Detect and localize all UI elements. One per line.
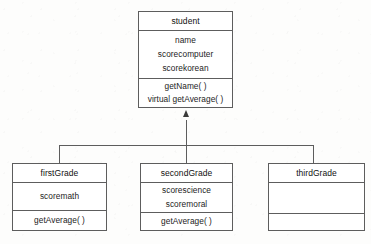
- uml-diagram-canvas: student name scorecomputer scorekorean g…: [0, 0, 371, 244]
- class-box-secondGrade[interactable]: secondGrade scorescience scoremoral getA…: [140, 163, 233, 231]
- attribute-item: name: [175, 36, 196, 45]
- inheritance-leg-secondGrade: [186, 145, 187, 163]
- class-title-compartment-firstGrade: firstGrade: [13, 164, 106, 182]
- class-attributes-compartment-thirdGrade: [269, 182, 364, 213]
- class-operations-compartment-student: getName( ) virtual getAverage( ): [139, 78, 232, 107]
- class-name-thirdGrade: thirdGrade: [296, 168, 337, 178]
- class-title-compartment-secondGrade: secondGrade: [141, 164, 232, 182]
- class-box-student[interactable]: student name scorecomputer scorekorean g…: [138, 11, 233, 108]
- attribute-item: scorekorean: [162, 64, 208, 73]
- class-name-student: student: [171, 16, 199, 26]
- class-box-firstGrade[interactable]: firstGrade scoremath getAverage( ): [12, 163, 107, 231]
- inheritance-leg-thirdGrade: [313, 145, 314, 163]
- attribute-item: scorescience: [162, 186, 211, 195]
- class-title-compartment-thirdGrade: thirdGrade: [269, 164, 364, 182]
- attribute-item: scoremoral: [166, 200, 208, 209]
- attribute-item: scorecomputer: [158, 50, 214, 59]
- class-name-firstGrade: firstGrade: [41, 168, 79, 178]
- class-operations-compartment-thirdGrade: [269, 213, 364, 230]
- class-name-secondGrade: secondGrade: [161, 168, 213, 178]
- inheritance-leg-firstGrade: [59, 145, 60, 163]
- operation-item: getName( ): [165, 82, 207, 91]
- attribute-item: scoremath: [40, 192, 79, 201]
- class-attributes-compartment-secondGrade: scorescience scoremoral: [141, 182, 232, 212]
- class-title-compartment-student: student: [139, 12, 232, 30]
- inheritance-trunk-line: [186, 120, 187, 146]
- class-box-thirdGrade[interactable]: thirdGrade: [268, 163, 365, 231]
- inheritance-arrowhead-icon: [183, 110, 189, 117]
- class-attributes-compartment-student: name scorecomputer scorekorean: [139, 30, 232, 78]
- operation-item: virtual getAverage( ): [148, 95, 224, 104]
- class-operations-compartment-firstGrade: getAverage( ): [13, 210, 106, 230]
- operation-item: getAverage( ): [161, 217, 212, 226]
- operation-item: getAverage( ): [34, 216, 85, 225]
- class-operations-compartment-secondGrade: getAverage( ): [141, 212, 232, 230]
- class-attributes-compartment-firstGrade: scoremath: [13, 182, 106, 210]
